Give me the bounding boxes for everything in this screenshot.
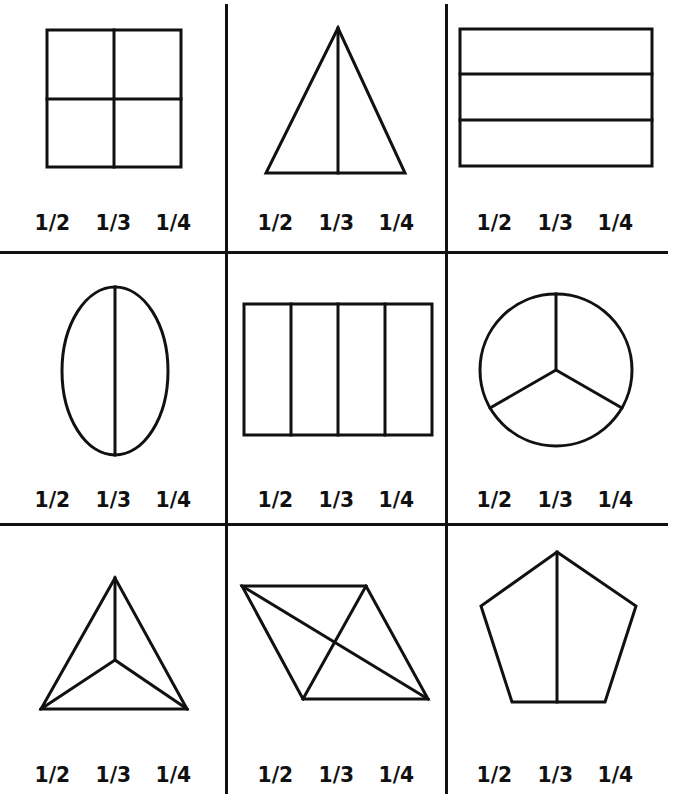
problem-cell-9: 1/2 1/3 1/4 — [446, 524, 676, 812]
fraction-choices: 1/2 1/3 1/4 — [0, 487, 226, 512]
circle-thirds-shape — [446, 252, 676, 524]
choice-one-quarter[interactable]: 1/4 — [598, 210, 634, 235]
choice-one-third[interactable]: 1/3 — [537, 487, 573, 512]
choice-one-third[interactable]: 1/3 — [318, 762, 354, 787]
fraction-choices: 1/2 1/3 1/4 — [0, 210, 226, 235]
problem-cell-7: 1/2 1/3 1/4 — [0, 524, 226, 812]
triangle-divider-right — [115, 660, 187, 709]
choice-one-quarter[interactable]: 1/4 — [379, 210, 415, 235]
fraction-choices: 1/2 1/3 1/4 — [440, 487, 670, 512]
rectangle-quarters-shape — [226, 252, 446, 524]
problem-cell-2: 1/2 1/3 1/4 — [226, 0, 446, 252]
choice-one-half[interactable]: 1/2 — [258, 210, 294, 235]
parallelogram-diagonal-2 — [303, 586, 366, 699]
choice-one-half[interactable]: 1/2 — [35, 210, 71, 235]
choice-one-third[interactable]: 1/3 — [318, 487, 354, 512]
choice-one-half[interactable]: 1/2 — [35, 487, 71, 512]
choice-one-third[interactable]: 1/3 — [537, 762, 573, 787]
choice-one-third[interactable]: 1/3 — [537, 210, 573, 235]
rectangle-outline — [460, 29, 652, 166]
problem-cell-5: 1/2 1/3 1/4 — [226, 252, 446, 524]
choice-one-quarter[interactable]: 1/4 — [379, 762, 415, 787]
choice-one-half[interactable]: 1/2 — [477, 487, 513, 512]
choice-one-quarter[interactable]: 1/4 — [598, 487, 634, 512]
problem-cell-8: 1/2 1/3 1/4 — [226, 524, 446, 812]
choice-one-quarter[interactable]: 1/4 — [598, 762, 634, 787]
choice-one-half[interactable]: 1/2 — [477, 210, 513, 235]
choice-one-half[interactable]: 1/2 — [258, 762, 294, 787]
problem-cell-1: 1/2 1/3 1/4 — [0, 0, 226, 252]
choice-one-half[interactable]: 1/2 — [477, 762, 513, 787]
triangle-divider-left — [41, 660, 115, 709]
choice-one-half[interactable]: 1/2 — [35, 762, 71, 787]
fraction-choices: 1/2 1/3 1/4 — [226, 762, 446, 787]
choice-one-third[interactable]: 1/3 — [95, 487, 131, 512]
choice-one-quarter[interactable]: 1/4 — [156, 487, 192, 512]
choice-one-quarter[interactable]: 1/4 — [379, 487, 415, 512]
choice-one-quarter[interactable]: 1/4 — [156, 210, 192, 235]
choice-one-third[interactable]: 1/3 — [318, 210, 354, 235]
problem-cell-6: 1/2 1/3 1/4 — [446, 252, 676, 524]
oval-halves-shape — [0, 252, 226, 524]
fraction-choices: 1/2 1/3 1/4 — [226, 487, 446, 512]
fraction-choices: 1/2 1/3 1/4 — [226, 210, 446, 235]
circle-divider-left — [490, 370, 556, 408]
choice-one-quarter[interactable]: 1/4 — [156, 762, 192, 787]
fraction-choices: 1/2 1/3 1/4 — [440, 210, 670, 235]
choice-one-half[interactable]: 1/2 — [258, 487, 294, 512]
choice-one-third[interactable]: 1/3 — [95, 210, 131, 235]
choice-one-third[interactable]: 1/3 — [95, 762, 131, 787]
problem-cell-4: 1/2 1/3 1/4 — [0, 252, 226, 524]
fraction-choices: 1/2 1/3 1/4 — [0, 762, 226, 787]
triangle-outline — [266, 28, 405, 173]
circle-divider-right — [556, 370, 622, 408]
fraction-worksheet: 1/2 1/3 1/4 1/2 1/3 1/4 1/2 1/3 1/4 — [0, 0, 676, 812]
fraction-choices: 1/2 1/3 1/4 — [440, 762, 670, 787]
problem-cell-3: 1/2 1/3 1/4 — [446, 0, 676, 252]
